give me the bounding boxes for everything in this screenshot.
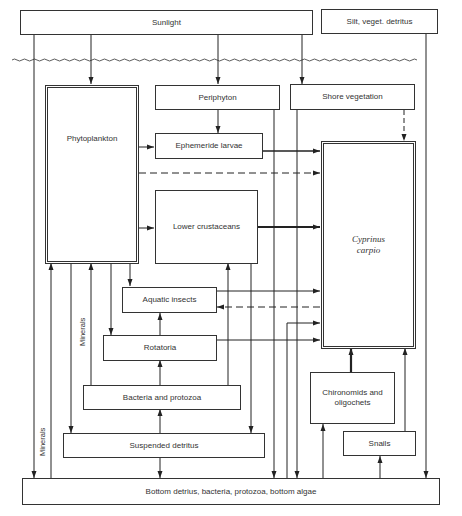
node-label: Silt, veget. detritus [347, 17, 413, 27]
node-sunlight: Sunlight [20, 10, 313, 35]
node-aquatic-insects: Aquatic insects [122, 287, 217, 313]
minerals-label-inner: Minerals [78, 318, 87, 346]
node-suspended-detritus: Suspended detritus [63, 433, 265, 458]
node-ephemeride-larvae: Ephemeride larvae [155, 133, 263, 159]
node-shore-vegetation: Shore vegetation [290, 84, 415, 110]
node-label: Bottom detrius, bacteria, protozoa, bott… [146, 487, 317, 497]
node-label: Chironomids and oligochets [322, 388, 384, 408]
node-label: Bacteria and protozoa [123, 393, 201, 403]
node-label: Suspended detritus [130, 441, 199, 451]
node-label: Lower crustaceans [172, 222, 242, 232]
node-periphyton: Periphyton [155, 85, 280, 110]
node-snails: Snails [343, 431, 416, 456]
node-chironomids: Chironomids and oligochets [310, 372, 395, 424]
node-label: Ephemeride larvae [175, 141, 242, 151]
node-lower-crustaceans: Lower crustaceans [155, 190, 258, 264]
node-phytoplankton: Phytoplankton [45, 85, 139, 264]
minerals-label-outer: Minerals [38, 428, 47, 456]
node-bacteria-protozoa: Bacteria and protozoa [83, 385, 241, 410]
node-label: Aquatic insects [143, 295, 197, 305]
node-label: Shore vegetation [322, 92, 383, 102]
water-surface-line [12, 59, 417, 61]
node-label: Periphyton [198, 93, 236, 103]
node-label: Snails [369, 439, 391, 449]
node-silt: Silt, veget. detritus [321, 9, 438, 34]
node-label: Sunlight [152, 18, 181, 28]
node-rotatoria: Rotatoria [103, 335, 217, 361]
node-bottom: Bottom detrius, bacteria, protozoa, bott… [22, 478, 440, 505]
node-label: Rotatoria [144, 343, 176, 353]
node-label: Cyprinus carpio [344, 234, 394, 257]
node-label: Phytoplankton [67, 134, 118, 144]
food-web-diagram: Sunlight Silt, veget. detritus Periphyto… [0, 0, 462, 516]
node-cyprinus-carpio: Cyprinus carpio [321, 141, 416, 349]
